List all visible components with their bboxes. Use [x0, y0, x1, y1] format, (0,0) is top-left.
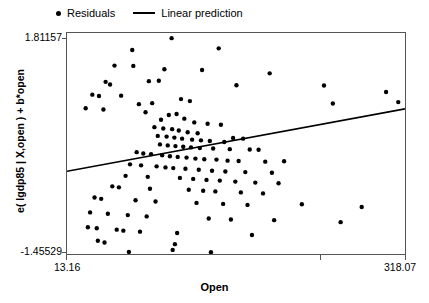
data-point [209, 250, 213, 254]
legend-entry-residuals: Residuals [56, 8, 115, 19]
data-point [300, 202, 304, 206]
data-point [210, 169, 214, 173]
data-point [158, 142, 162, 146]
data-point [134, 150, 138, 154]
data-point [221, 202, 225, 206]
data-point [174, 112, 178, 116]
data-point [185, 130, 189, 134]
data-point [138, 229, 142, 233]
data-point [219, 123, 223, 127]
data-point [202, 157, 206, 161]
data-point [270, 171, 274, 175]
data-point [95, 226, 99, 230]
data-point [245, 203, 249, 207]
data-point [208, 139, 212, 143]
data-point [181, 145, 185, 149]
data-point [179, 97, 183, 101]
line-marker-icon [133, 12, 155, 14]
data-point [159, 118, 163, 122]
data-point [157, 79, 161, 83]
data-point [112, 63, 116, 67]
data-point [168, 154, 172, 158]
data-point [171, 166, 175, 170]
data-point [214, 157, 218, 161]
data-point [234, 83, 238, 87]
data-point [167, 113, 171, 117]
data-point [164, 134, 168, 138]
data-point [121, 228, 125, 232]
data-point [184, 155, 188, 159]
data-point [218, 178, 222, 182]
data-point [223, 169, 227, 173]
data-point [101, 107, 105, 111]
data-point [177, 128, 181, 132]
data-point [199, 138, 203, 142]
data-point [117, 185, 121, 189]
y-axis-tick-bottom: -1.45529 [0, 245, 62, 259]
data-point [152, 125, 156, 129]
data-point [92, 195, 96, 199]
data-point [143, 110, 147, 114]
data-point [211, 146, 215, 150]
legend-label-residuals: Residuals [67, 8, 115, 19]
data-point [197, 168, 201, 172]
data-point [88, 210, 92, 214]
data-point [248, 147, 252, 151]
data-point [108, 82, 112, 86]
data-point [195, 131, 199, 135]
data-point [225, 158, 229, 162]
data-point [236, 159, 240, 163]
data-point [267, 71, 271, 75]
data-point [233, 179, 237, 183]
data-point [187, 188, 191, 192]
data-point [192, 120, 196, 124]
data-point [123, 174, 127, 178]
data-point [130, 48, 134, 52]
data-point [276, 181, 280, 185]
plot-canvas [67, 33, 405, 254]
added-variable-plot: Residuals Linear prediction 1.81157 -1.4… [0, 0, 429, 303]
data-point [131, 64, 135, 68]
plot-area [66, 32, 406, 255]
data-point [110, 184, 114, 188]
data-point [256, 148, 260, 152]
legend-entry-linear-prediction: Linear prediction [133, 8, 242, 19]
data-point [175, 155, 179, 159]
data-point [161, 126, 165, 130]
data-point [190, 137, 194, 141]
x-axis-tick-mark-max [405, 255, 406, 260]
data-point [119, 94, 123, 98]
data-point [106, 212, 110, 216]
data-point [170, 127, 174, 131]
data-point [169, 36, 173, 40]
data-point [144, 214, 148, 218]
data-point [173, 242, 177, 246]
data-point [156, 134, 160, 138]
dot-marker-icon [56, 11, 61, 16]
data-point [173, 144, 177, 148]
data-point [128, 162, 132, 166]
data-point [148, 187, 152, 191]
data-point [204, 178, 208, 182]
data-point [191, 177, 195, 181]
data-point [396, 100, 400, 104]
x-axis-title: Open [0, 281, 429, 293]
data-point [201, 189, 205, 193]
data-point [194, 201, 198, 205]
data-point [338, 220, 342, 224]
y-axis-tick-label-min: -1.45529 [21, 245, 62, 257]
data-point [153, 199, 157, 203]
data-point [99, 197, 103, 201]
data-point [272, 218, 276, 222]
data-point [180, 136, 184, 140]
data-point [217, 46, 221, 50]
data-point [86, 225, 90, 229]
data-point [162, 67, 166, 71]
x-axis-tick-label-max: 318.07 [384, 261, 416, 273]
data-point [213, 189, 217, 193]
data-point [146, 175, 150, 179]
data-point [127, 250, 131, 254]
data-point [200, 68, 204, 72]
data-point [170, 248, 174, 252]
x-axis-tick-label-min: 13.16 [54, 261, 80, 273]
